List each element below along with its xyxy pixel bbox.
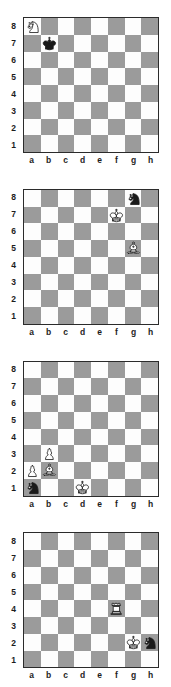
square-b4[interactable] (41, 600, 58, 617)
square-c3[interactable] (58, 617, 75, 634)
square-c4[interactable] (58, 429, 75, 446)
square-f7[interactable] (108, 378, 125, 395)
square-d6[interactable] (74, 223, 91, 240)
square-c1[interactable] (58, 307, 75, 324)
square-d6[interactable] (74, 52, 91, 69)
square-c6[interactable] (58, 567, 75, 584)
square-g5[interactable] (125, 68, 142, 85)
square-b3[interactable] (41, 617, 58, 634)
square-f7[interactable] (108, 35, 125, 52)
square-g7[interactable] (125, 378, 142, 395)
square-a7[interactable] (24, 35, 41, 52)
square-d7[interactable] (74, 207, 91, 224)
square-h8[interactable] (141, 533, 158, 550)
square-b6[interactable] (41, 223, 58, 240)
square-b2[interactable] (41, 119, 58, 136)
square-c6[interactable] (58, 52, 75, 69)
square-f5[interactable] (108, 412, 125, 429)
square-f6[interactable] (108, 223, 125, 240)
square-f5[interactable] (108, 240, 125, 257)
square-h7[interactable] (141, 378, 158, 395)
square-h4[interactable] (141, 429, 158, 446)
square-b5[interactable] (41, 412, 58, 429)
square-e7[interactable] (91, 35, 108, 52)
square-d3[interactable] (74, 617, 91, 634)
square-b1[interactable] (41, 307, 58, 324)
white-rook-icon[interactable] (108, 600, 125, 617)
square-g1[interactable] (125, 479, 142, 496)
square-f8[interactable] (108, 18, 125, 35)
square-b3[interactable] (41, 274, 58, 291)
square-f3[interactable] (108, 102, 125, 119)
square-h5[interactable] (141, 584, 158, 601)
square-b5[interactable] (41, 68, 58, 85)
chess-board[interactable] (23, 189, 159, 325)
square-b6[interactable] (41, 395, 58, 412)
square-g1[interactable] (125, 651, 142, 668)
square-a1[interactable] (24, 479, 41, 496)
square-a4[interactable] (24, 257, 41, 274)
square-a7[interactable] (24, 550, 41, 567)
square-d4[interactable] (74, 257, 91, 274)
square-e1[interactable] (91, 651, 108, 668)
square-h3[interactable] (141, 274, 158, 291)
square-c3[interactable] (58, 274, 75, 291)
square-f2[interactable] (108, 462, 125, 479)
square-a2[interactable] (24, 634, 41, 651)
square-g5[interactable] (125, 240, 142, 257)
square-g6[interactable] (125, 567, 142, 584)
square-b2[interactable] (41, 462, 58, 479)
square-d4[interactable] (74, 600, 91, 617)
square-f2[interactable] (108, 290, 125, 307)
square-a7[interactable] (24, 378, 41, 395)
square-e6[interactable] (91, 567, 108, 584)
black-knight-icon[interactable] (141, 634, 158, 651)
square-h1[interactable] (141, 479, 158, 496)
square-g8[interactable] (125, 18, 142, 35)
square-h2[interactable] (141, 119, 158, 136)
square-e8[interactable] (91, 533, 108, 550)
square-d3[interactable] (74, 102, 91, 119)
square-c6[interactable] (58, 223, 75, 240)
square-a6[interactable] (24, 223, 41, 240)
square-d1[interactable] (74, 307, 91, 324)
square-e3[interactable] (91, 445, 108, 462)
square-g6[interactable] (125, 395, 142, 412)
black-king-icon[interactable] (41, 35, 58, 52)
square-e4[interactable] (91, 600, 108, 617)
square-e4[interactable] (91, 85, 108, 102)
square-c8[interactable] (58, 362, 75, 379)
square-a1[interactable] (24, 307, 41, 324)
square-a6[interactable] (24, 567, 41, 584)
square-e1[interactable] (91, 135, 108, 152)
square-e6[interactable] (91, 395, 108, 412)
square-c5[interactable] (58, 412, 75, 429)
square-a3[interactable] (24, 274, 41, 291)
square-g8[interactable] (125, 362, 142, 379)
square-c7[interactable] (58, 550, 75, 567)
white-bishop-icon[interactable] (41, 462, 58, 479)
square-f4[interactable] (108, 429, 125, 446)
square-b7[interactable] (41, 207, 58, 224)
square-f5[interactable] (108, 584, 125, 601)
square-h1[interactable] (141, 651, 158, 668)
square-a5[interactable] (24, 240, 41, 257)
square-e7[interactable] (91, 207, 108, 224)
square-c2[interactable] (58, 290, 75, 307)
square-a3[interactable] (24, 617, 41, 634)
square-h6[interactable] (141, 223, 158, 240)
square-f3[interactable] (108, 617, 125, 634)
square-b8[interactable] (41, 533, 58, 550)
black-knight-icon[interactable] (24, 479, 41, 496)
square-f4[interactable] (108, 257, 125, 274)
square-a4[interactable] (24, 600, 41, 617)
square-d7[interactable] (74, 35, 91, 52)
square-c8[interactable] (58, 533, 75, 550)
square-f4[interactable] (108, 600, 125, 617)
square-d1[interactable] (74, 651, 91, 668)
square-e7[interactable] (91, 378, 108, 395)
square-b1[interactable] (41, 651, 58, 668)
square-d7[interactable] (74, 378, 91, 395)
square-d2[interactable] (74, 119, 91, 136)
white-king-icon[interactable] (74, 479, 91, 496)
